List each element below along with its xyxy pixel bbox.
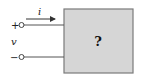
minus-terminal <box>19 55 24 60</box>
circuit-diagram: ? + i v − <box>0 0 145 82</box>
unknown-element-label: ? <box>94 34 102 49</box>
current-label: i <box>38 6 41 17</box>
plus-terminal <box>19 23 24 28</box>
minus-sign: − <box>10 52 18 63</box>
voltage-label: v <box>11 36 17 47</box>
plus-sign: + <box>11 20 19 31</box>
